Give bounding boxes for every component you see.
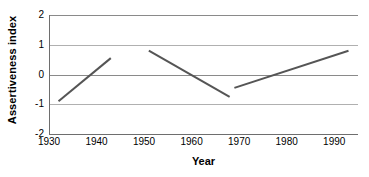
x-tick-label: 1940 [85, 136, 107, 148]
series-line [234, 51, 348, 88]
x-tick-label: 1960 [180, 136, 202, 148]
x-tick-label: 1950 [133, 136, 155, 148]
x-tick-label: 1930 [38, 136, 60, 148]
series-line [149, 51, 230, 97]
y-tick-label: 0 [24, 70, 48, 80]
y-tick-label: -1 [24, 99, 48, 109]
gridline [49, 134, 358, 135]
y-tick-label: 2 [24, 10, 48, 20]
y-axis-title: Assertiveness index [0, 0, 24, 140]
chart-figure: Assertiveness index 210-1-2 193019401950… [0, 0, 369, 177]
data-series-layer [49, 15, 358, 134]
plot-area [49, 15, 358, 134]
series-line [59, 58, 111, 101]
x-axis-title: Year [49, 155, 358, 167]
x-axis-title-text: Year [192, 155, 215, 167]
x-tick-label: 1990 [323, 136, 345, 148]
x-tick-label: 1970 [228, 136, 250, 148]
y-axis-title-text: Assertiveness index [6, 16, 18, 124]
x-tick-label: 1980 [276, 136, 298, 148]
y-axis-tick-labels: 210-1-2 [24, 15, 48, 134]
y-tick-label: 1 [24, 40, 48, 50]
x-axis-tick-labels: 1930194019501960197019801990 [49, 136, 358, 150]
